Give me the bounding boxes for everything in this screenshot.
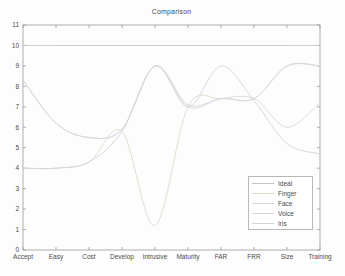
legend-line-sample <box>252 213 274 214</box>
matlab-figure: Comparison 01234567891011AcceptEasyCostD… <box>0 0 345 276</box>
legend-line-sample <box>252 183 274 184</box>
x-tick-label: Cost <box>82 253 96 260</box>
y-tick-label: 10 <box>12 42 20 49</box>
y-tick-label: 4 <box>15 164 19 171</box>
legend-item-ideal: Ideal <box>249 178 312 188</box>
y-tick-label: 1 <box>15 226 19 233</box>
x-tick-label: Develop <box>110 253 134 261</box>
legend-item-finger: Finger <box>249 188 312 198</box>
y-tick-label: 2 <box>15 205 19 212</box>
legend-label: Voice <box>278 210 294 217</box>
x-tick-label: Maturity <box>176 253 200 261</box>
series-curve-face <box>23 63 320 138</box>
x-tick-label: Accept <box>13 253 33 261</box>
x-tick-label: FRR <box>247 253 261 260</box>
y-tick-label: 6 <box>15 124 19 131</box>
y-tick-label: 11 <box>12 21 19 28</box>
y-tick-label: 5 <box>15 144 19 151</box>
legend-line-sample <box>252 223 274 224</box>
x-tick-label: Training <box>308 253 332 261</box>
y-tick-label: 9 <box>15 62 19 69</box>
y-tick-label: 3 <box>15 185 19 192</box>
x-tick-label: FAR <box>215 253 228 260</box>
legend-label: Face <box>278 200 292 207</box>
y-tick-label: 7 <box>15 103 19 110</box>
y-tick-label: 8 <box>15 83 19 90</box>
x-tick-label: Size <box>281 253 294 260</box>
legend-label: Iris <box>278 220 287 227</box>
legend-item-iris: Iris <box>249 218 312 228</box>
legend-label: Finger <box>278 190 296 197</box>
x-tick-label: Easy <box>49 253 64 261</box>
chart-canvas: 01234567891011AcceptEasyCostDevelopIntru… <box>0 0 345 276</box>
legend-label: Ideal <box>278 180 292 187</box>
chart-legend: IdealFingerFaceVoiceIris <box>248 176 313 230</box>
legend-item-voice: Voice <box>249 208 312 218</box>
legend-line-sample <box>252 193 274 194</box>
legend-item-face: Face <box>249 198 312 208</box>
x-tick-label: Intrusive <box>143 253 168 260</box>
legend-line-sample <box>252 203 274 204</box>
